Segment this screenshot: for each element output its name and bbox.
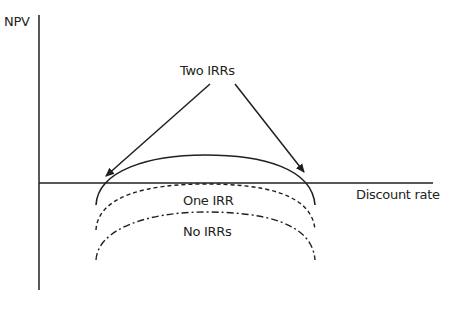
npv-irr-diagram xyxy=(0,0,455,311)
two-irrs-label: Two IRRs xyxy=(180,63,235,78)
one-irr-label: One IRR xyxy=(183,193,233,208)
x-axis-label: Discount rate xyxy=(356,187,440,202)
arrow-left xyxy=(106,84,210,176)
no-irrs-label: No IRRs xyxy=(183,224,231,239)
y-axis-label: NPV xyxy=(4,14,30,29)
arrow-right xyxy=(235,84,304,172)
